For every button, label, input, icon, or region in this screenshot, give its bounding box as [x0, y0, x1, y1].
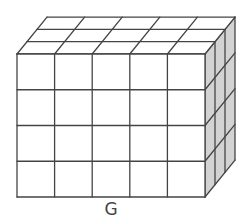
cube-prism-diagram: [0, 0, 248, 223]
figure-label: G: [0, 199, 222, 219]
top-face: [17, 17, 235, 54]
front-face: [17, 54, 205, 197]
